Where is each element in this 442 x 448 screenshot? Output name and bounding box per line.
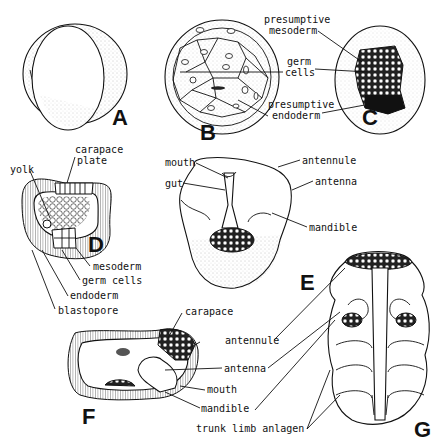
- panel-letter-g: G: [414, 417, 431, 442]
- label-presumptive-mesoderm-2: mesoderm: [269, 25, 317, 36]
- label-antennule-e: antennule: [302, 155, 356, 166]
- label-germ-cells-2: cells: [285, 67, 315, 78]
- label-mesoderm: mesoderm: [93, 261, 141, 272]
- label-mandible-e: mandible: [309, 222, 357, 233]
- label-germ-cells-d: germ cells: [82, 275, 142, 286]
- panel-letter-a: A: [112, 105, 128, 130]
- label-carapace-f: carapace: [185, 306, 233, 317]
- panel-b: B: [165, 20, 279, 145]
- label-antenna-g: antenna: [224, 363, 266, 374]
- label-mandible-g: mandible: [201, 403, 249, 414]
- label-blastopore: blastopore: [58, 305, 118, 316]
- label-carapace-plate: carapace: [75, 144, 123, 155]
- panel-letter-e: E: [300, 270, 315, 295]
- panel-letter-c: C: [362, 105, 378, 130]
- embryo-development-figure: A B C presumptive mesoderm germ cells pr…: [0, 0, 442, 448]
- panel-d: D yolk carapace plate mesoderm germ cell…: [10, 144, 142, 316]
- label-carapace-plate-2: plate: [77, 155, 107, 166]
- panel-g: G antennule antenna mouth mandible trunk…: [165, 252, 431, 443]
- label-mouth: mouth: [165, 157, 195, 168]
- panel-e: E mouth gut antennule antenna mandible: [165, 155, 357, 295]
- panel-letter-d: D: [88, 232, 104, 257]
- label-presumptive-endoderm: presumptive: [268, 99, 334, 110]
- label-trunk-limb-anlagen: trunk limb anlagen: [196, 423, 304, 434]
- label-presumptive-mesoderm: presumptive: [264, 14, 330, 25]
- label-gut: gut: [165, 178, 183, 189]
- label-antenna-e: antenna: [315, 176, 357, 187]
- panel-a: A: [23, 24, 128, 130]
- label-endoderm: endoderm: [70, 290, 118, 301]
- label-yolk: yolk: [10, 164, 34, 175]
- panel-letter-f: F: [82, 404, 95, 429]
- panel-letter-b: B: [200, 120, 216, 145]
- label-germ-cells: germ: [287, 56, 311, 67]
- label-antennule-g: antennule: [225, 335, 279, 346]
- label-mouth-g: mouth: [207, 384, 237, 395]
- label-presumptive-endoderm-2: endoderm: [272, 110, 320, 121]
